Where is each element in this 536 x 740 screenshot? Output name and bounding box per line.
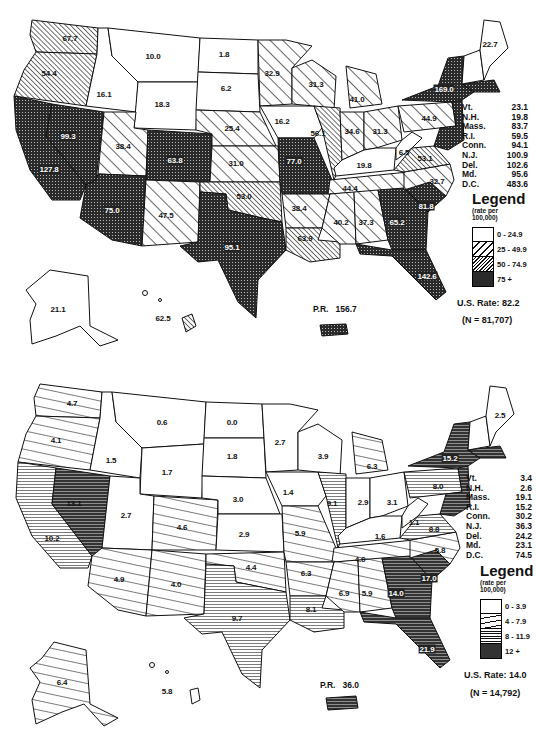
state-ks [216,514,284,552]
state-hi [190,688,200,704]
label-mi: 6.3 [367,462,378,471]
label-oh: 3.1 [387,498,398,507]
label-wi: 31.3 [309,80,324,89]
legend-range: 75 + [497,275,512,284]
swatch-wide-diagonal [472,242,494,257]
legend-range: 25 - 49.9 [497,245,527,254]
us-map-top [0,0,536,370]
label-mo: 77.0 [286,157,303,166]
label-mt: 0.6 [157,418,168,427]
legend-subtitle: 100,000) [472,214,527,221]
swatch-crosshatch-dark [480,644,502,659]
label-ia: 16.2 [275,117,290,126]
label-ak: 21.1 [51,305,66,314]
label-mt: 10.0 [146,52,161,61]
label-ga: 14.0 [388,589,405,598]
legend-title: Legend [472,190,527,207]
label-ar: 6.3 [301,569,312,578]
label-al: 37.3 [359,218,374,227]
label-ia: 1.4 [283,488,294,497]
legend-range: 0 - 3.9 [505,602,526,611]
label-nv: 13.1 [67,499,82,508]
legend-swatches: 0 - 3.9 4 - 7.9 8 - 11.9 12 + [480,599,533,659]
label-ca: 10.2 [45,534,60,543]
label-tn: 44.4 [343,184,358,193]
label-nd: 0.0 [227,418,238,427]
legend-item: 25 - 49.9 [472,242,527,257]
state-hi [182,314,196,332]
label-wa: 67.7 [63,34,78,43]
state-me [480,20,508,80]
state-fl [360,612,450,668]
label-wi: 3.9 [318,452,329,461]
label-tx: 9.7 [232,614,243,623]
legend-range: 8 - 11.9 [505,632,530,641]
label-co: 4.6 [177,523,188,532]
label-va: 53.1 [418,154,433,163]
hawaii-islet [166,671,169,674]
label-me: 2.5 [495,411,506,420]
small-state-name: D.C. [466,551,483,561]
label-ky: 1.6 [375,532,386,541]
label-nc: 32.7 [430,177,445,186]
legend-range: 4 - 7.9 [505,617,526,626]
label-wy: 18.3 [155,100,170,109]
legend-range: 12 + [505,647,520,656]
n-count-bottom: (N = 14,792) [470,688,520,698]
label-me: 22.7 [483,40,498,49]
legend-swatches: 0 - 24.9 25 - 49.9 50 - 74.9 75 + [472,227,527,287]
swatch-crosshatch-dark [472,272,494,287]
label-ne: 3.0 [233,495,244,504]
label-co: 63.8 [167,156,184,165]
label-ny: 169.0 [433,85,454,94]
label-wv: 6.5 [399,148,410,157]
small-states-table-bottom: Vt.3.4 N.H.2.6 Mass.19.1 R.I.15.2 Conn.3… [466,474,532,560]
label-nv: 99.3 [60,132,77,141]
state-ks [210,146,280,182]
pr-label-bottom: P.R. 36.0 [320,680,359,690]
label-il: 56.1 [311,129,326,138]
label-mn: 2.7 [275,438,286,447]
puerto-rico [326,696,358,710]
label-pa: 44.9 [422,114,437,123]
legend-subtitle: 100,000) [480,586,533,593]
label-az: 75.0 [104,206,121,215]
label-va: 8.8 [429,525,440,534]
label-mi: 41.0 [350,95,365,104]
legend-range: 50 - 74.9 [497,260,527,269]
label-id: 1.5 [106,456,117,465]
label-or: 4.1 [51,436,62,445]
small-state-name: D.C. [462,180,479,190]
label-ms: 40.2 [334,218,349,227]
label-al: 5.9 [362,589,373,598]
label-ar: 38.4 [292,204,307,213]
legend-bottom: Legend (rate per 100,000) 0 - 3.9 4 - 7.… [480,562,533,659]
pr-value: 156.7 [336,304,357,314]
label-sc: 81.8 [418,202,435,211]
small-state-row: D.C.483.6 [462,180,528,190]
label-tx: 95.1 [224,243,241,252]
state-or [14,52,97,106]
legend-subtitle: (rate per [480,579,533,586]
label-wv: 1.1 [409,518,420,527]
us-rate-top: U.S. Rate: 82.2 [457,298,520,308]
pr-value: 36.0 [343,680,360,690]
hawaii-islet [150,663,155,668]
label-hi: 5.8 [162,687,173,696]
label-az: 4.9 [114,575,125,584]
puerto-rico [320,324,348,336]
label-ok: 53.0 [237,192,252,201]
swatch-dense-horizontal [480,629,502,644]
label-ks: 2.9 [239,530,250,539]
small-state-row: D.C.74.5 [466,551,532,561]
label-ok: 4.4 [246,563,257,572]
label-ky: 19.8 [357,161,372,170]
hawaii-islet [143,291,148,296]
label-wa: 4.7 [67,399,78,408]
legend-item: 50 - 74.9 [472,257,527,272]
state-mo [282,506,336,562]
label-wy: 1.7 [162,468,173,477]
label-pa: 8.0 [433,482,444,491]
label-sd: 6.2 [221,84,232,93]
legend-item: 75 + [472,272,527,287]
